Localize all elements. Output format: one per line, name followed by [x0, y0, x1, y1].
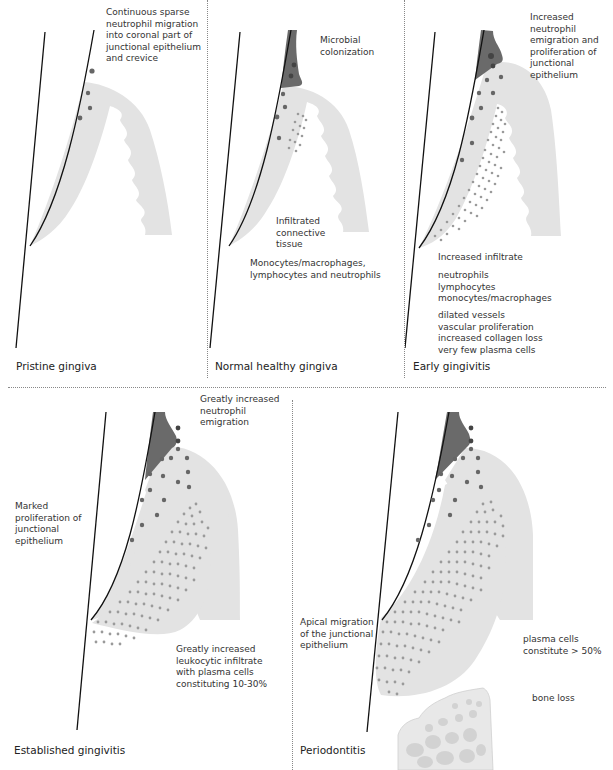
panel-title-normal-healthy-gingiva: Normal healthy gingiva: [215, 360, 338, 372]
label-greatly-increased-neutrophil-emigration: Greatly increased neutrophil emigration: [200, 394, 279, 429]
label-cell-types: Monocytes/macrophages, lymphocytes and n…: [250, 258, 381, 281]
panel-pristine-gingiva: Continuous sparse neutrophil migration i…: [0, 0, 205, 380]
label-infiltrated-connective-tissue: Infiltrated connective tissue: [276, 216, 325, 251]
panel-periodontitis: Apical migration of the junctional epith…: [295, 390, 613, 770]
divider-vertical-3: [292, 400, 293, 770]
panel-early-gingivitis: Increased neutrophil emigration and prol…: [405, 0, 613, 380]
periodontitis-illustration: [295, 390, 613, 770]
label-leukocytic-infiltrate: Greatly increased leukocytic infiltrate …: [176, 644, 267, 690]
panel-title-pristine-gingiva: Pristine gingiva: [16, 360, 97, 372]
label-marked-proliferation: Marked proliferation of junctional epith…: [15, 501, 81, 547]
label-infiltrate-cell-types: neutrophils lymphocytes monocytes/macrop…: [438, 270, 552, 305]
alveolar-bone: [398, 688, 493, 770]
normal-gingiva-illustration: [205, 0, 405, 380]
label-plasma-cells: plasma cells constitute > 50%: [523, 634, 601, 657]
label-increased-infiltrate: Increased infiltrate: [438, 252, 523, 264]
divider-horizontal: [8, 387, 606, 388]
panel-normal-healthy-gingiva: Microbial colonization Infiltrated conne…: [205, 0, 405, 380]
label-apical-migration: Apical migration of the junctional epith…: [300, 617, 374, 652]
panel-established-gingivitis: Greatly increased neutrophil emigration …: [0, 390, 292, 770]
panel-title-early-gingivitis: Early gingivitis: [413, 360, 490, 372]
established-gingivitis-illustration: [0, 390, 292, 770]
panel-title-periodontitis: Periodontitis: [300, 744, 365, 756]
label-bone-loss: bone loss: [532, 693, 575, 705]
label-vascular-changes: dilated vessels vascular proliferation i…: [438, 310, 543, 356]
label-increased-neutrophil-emigration: Increased neutrophil emigration and prol…: [530, 12, 599, 81]
label-microbial-colonization: Microbial colonization: [320, 35, 374, 58]
label-neutrophil-migration: Continuous sparse neutrophil migration i…: [106, 7, 201, 65]
panel-title-established-gingivitis: Established gingivitis: [14, 744, 125, 756]
